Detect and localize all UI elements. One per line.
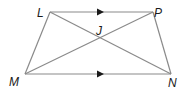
diagonal-pm	[25, 12, 153, 74]
parallel-arrow-icon-top	[97, 9, 104, 16]
trapezoid-diagram: L P J M N	[0, 0, 187, 91]
label-n: N	[168, 76, 177, 90]
diagonal-ln	[50, 12, 171, 74]
label-l: L	[37, 6, 44, 20]
label-m: M	[9, 75, 19, 89]
segment-lm	[25, 12, 50, 74]
parallel-arrow-icon-bottom	[97, 71, 104, 78]
segment-pn	[153, 12, 171, 74]
label-p: P	[154, 6, 162, 20]
label-j: J	[95, 24, 103, 38]
